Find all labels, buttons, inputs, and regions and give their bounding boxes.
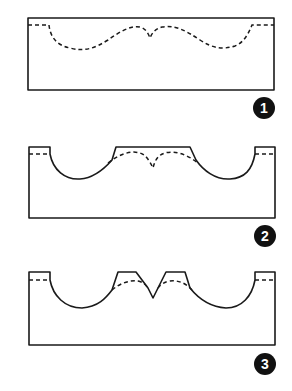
block-outline (28, 18, 274, 90)
panel-step-1: 1 (28, 18, 275, 119)
diagram-canvas: 1 2 3 (0, 0, 292, 391)
step-number-1: 1 (260, 100, 268, 116)
block-outline (29, 272, 275, 345)
dashed-profile-line (28, 25, 274, 50)
step-number-3: 3 (261, 356, 269, 372)
panel-step-3: 3 (29, 272, 276, 375)
step-number-2: 2 (261, 228, 269, 244)
dashed-profile-line (29, 280, 275, 290)
dashed-profile-line (29, 152, 275, 168)
block-outline (29, 147, 275, 218)
panel-step-2: 2 (29, 147, 276, 247)
